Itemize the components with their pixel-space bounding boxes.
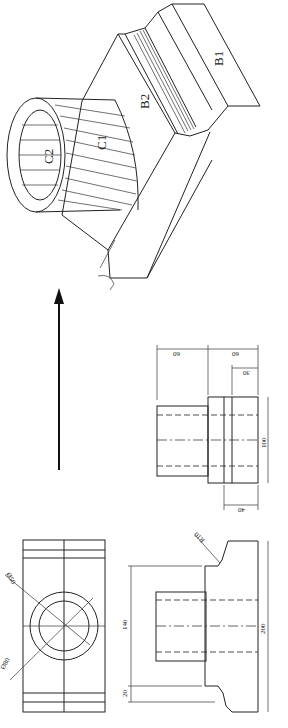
dim-dia-inner: Ø80 — [0, 656, 12, 671]
arrow-up-icon — [54, 288, 64, 470]
dim-radius: R10 — [192, 530, 206, 544]
dim-30: 30 — [243, 369, 251, 377]
dim-40: 40 — [238, 506, 246, 514]
engineering-drawing: B1 B2 C1 C2 60 60 30 100 40 — [0, 0, 288, 728]
dim-200: 200 — [259, 623, 267, 634]
dim-100: 100 — [260, 437, 268, 448]
isometric-view: B1 B2 C1 C2 — [7, 4, 260, 290]
top-view: 60 60 30 100 40 — [157, 345, 268, 514]
front-view: 140 20 200 R10 — [121, 530, 268, 712]
side-view: Ø50 Ø80 — [0, 540, 105, 712]
label-b1: B1 — [211, 51, 226, 66]
dim-60-left: 60 — [173, 350, 181, 358]
dim-140: 140 — [121, 619, 129, 630]
label-c1: C1 — [94, 135, 109, 150]
dim-20: 20 — [121, 690, 129, 698]
label-b2: B2 — [137, 94, 152, 109]
dim-60-right: 60 — [232, 350, 240, 358]
label-c2: C2 — [41, 149, 56, 164]
